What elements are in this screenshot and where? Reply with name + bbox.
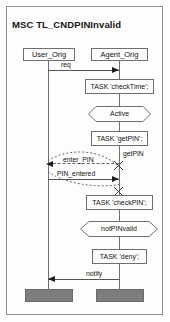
message-label-enter-pin: enter_PIN [62, 156, 95, 163]
message-line-pin-entered [48, 179, 119, 180]
instance-head-agent-orig[interactable]: Agent_Orig [91, 48, 148, 61]
arrow-head-left-icon [48, 276, 55, 282]
condition-label-active: Active [88, 106, 151, 121]
msc-diagram-canvas: MSC TL_CNDPINInvalid User_Orig Agent_Ori… [0, 0, 170, 322]
message-line-enter-pin [48, 163, 119, 164]
arrow-head-right-icon [112, 67, 119, 73]
condition-label-not-pin-valid: notPINvalid [80, 221, 158, 236]
action-box-check-pin[interactable]: TASK 'checkPIN'; [86, 195, 153, 210]
arrow-head-left-icon [46, 161, 53, 167]
action-box-deny[interactable]: TASK 'deny'; [92, 249, 147, 264]
condition-not-pin-valid[interactable]: notPINvalid [80, 221, 158, 237]
message-line-notify [48, 279, 119, 280]
action-box-get-pin[interactable]: TASK 'getPIN'; [91, 131, 148, 146]
terminator-user-orig [25, 289, 73, 302]
page-title: MSC TL_CNDPINInvalid [12, 19, 121, 30]
instance-head-user-orig[interactable]: User_Orig [23, 48, 75, 61]
message-label-notify: notify [85, 270, 103, 277]
arrow-head-right-icon [112, 176, 119, 182]
condition-active[interactable]: Active [88, 106, 151, 122]
message-line-req [48, 70, 119, 71]
message-label-req: req [60, 61, 72, 68]
terminator-agent-orig [96, 289, 144, 302]
action-box-check-time[interactable]: TASK 'checkTime'; [85, 79, 154, 94]
message-label-get-pin: getPIN [122, 150, 145, 157]
message-label-pin-entered: PIN_entered [56, 170, 96, 177]
